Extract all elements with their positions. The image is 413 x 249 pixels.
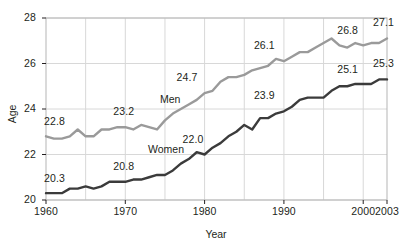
data-label-women-1970: 20.8 xyxy=(113,160,134,172)
data-label-men-2003: 27.1 xyxy=(373,16,394,28)
x-axis-tick-2003: 2003 xyxy=(367,205,407,217)
x-axis-tick-1990: 1990 xyxy=(264,205,304,217)
x-axis-tick-1960: 1960 xyxy=(26,205,66,217)
data-label-men-2000: 26.8 xyxy=(337,24,358,36)
x-axis-tick-1970: 1970 xyxy=(105,205,145,217)
data-label-women-1960: 20.3 xyxy=(44,172,65,184)
data-label-women-1980: 22.0 xyxy=(183,133,204,145)
data-label-men-1960: 22.8 xyxy=(44,115,65,127)
data-label-men-1980: 24.7 xyxy=(177,71,198,83)
line-chart: 2022242628 196019701980199020002003 Age … xyxy=(0,0,413,249)
y-axis-tick-26: 26 xyxy=(10,57,36,69)
data-label-men-1990: 26.1 xyxy=(254,39,275,51)
y-axis-tick-20: 20 xyxy=(10,193,36,205)
y-axis-tick-22: 22 xyxy=(10,148,36,160)
data-label-men-1970: 23.2 xyxy=(113,105,134,117)
series-label-men: Men xyxy=(160,93,180,105)
data-label-women-2003: 25.3 xyxy=(373,57,394,69)
y-axis-title: Age xyxy=(6,94,18,134)
y-axis-tick-28: 28 xyxy=(10,11,36,23)
data-label-women-2000: 25.1 xyxy=(337,63,358,75)
x-axis-title: Year xyxy=(186,228,246,240)
data-label-women-1990: 23.9 xyxy=(254,89,275,101)
series-label-women: Women xyxy=(148,143,184,155)
x-axis-tick-1980: 1980 xyxy=(185,205,225,217)
